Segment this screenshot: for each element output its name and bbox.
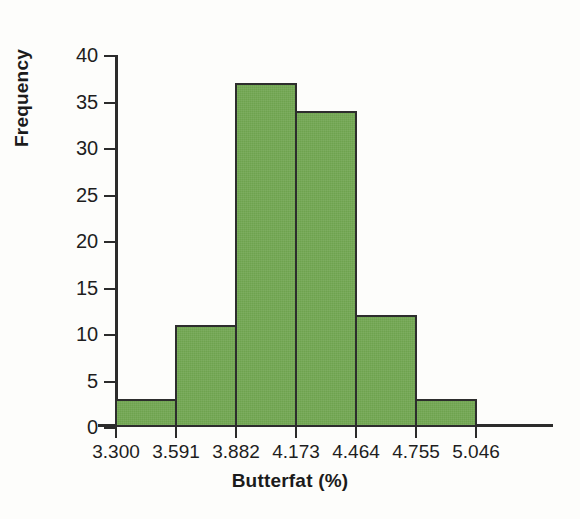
y-axis-tick bbox=[104, 288, 115, 290]
x-axis-tick bbox=[295, 427, 297, 438]
y-axis-tick bbox=[104, 148, 115, 150]
y-axis-tick-label: 15 bbox=[52, 277, 98, 300]
histogram-bar bbox=[355, 315, 417, 427]
y-axis-tick bbox=[104, 381, 115, 383]
histogram-chart: Frequency 0510152025303540 3.3003.5913.8… bbox=[0, 0, 580, 519]
y-axis-tick bbox=[104, 55, 115, 57]
y-axis-tick-label: 35 bbox=[52, 91, 98, 114]
x-axis-tick bbox=[115, 427, 117, 438]
y-axis-tick-label: 20 bbox=[52, 230, 98, 253]
y-axis-tick-label: 25 bbox=[52, 184, 98, 207]
x-axis-tick bbox=[355, 427, 357, 438]
x-axis-tick bbox=[175, 427, 177, 438]
x-axis-title: Butterfat (%) bbox=[0, 470, 580, 492]
histogram-bar bbox=[295, 111, 357, 427]
y-axis-tick bbox=[104, 241, 115, 243]
x-axis-tick bbox=[235, 427, 237, 438]
y-axis-tick bbox=[104, 334, 115, 336]
histogram-bar bbox=[235, 83, 297, 427]
y-axis-tick-label: 5 bbox=[52, 370, 98, 393]
y-axis-tick-label: 0 bbox=[52, 416, 98, 439]
y-axis-line bbox=[115, 55, 118, 427]
y-axis-tick-label: 40 bbox=[52, 44, 98, 67]
histogram-bar bbox=[115, 399, 177, 427]
plot-area: 0510152025303540 3.3003.5913.8824.1734.4… bbox=[115, 55, 535, 427]
y-axis-tick-label: 30 bbox=[52, 137, 98, 160]
histogram-bar bbox=[415, 399, 477, 427]
y-axis-tick bbox=[104, 195, 115, 197]
x-axis-tick-label: 5.046 bbox=[440, 441, 512, 463]
y-axis-tick bbox=[104, 102, 115, 104]
y-axis-tick bbox=[104, 427, 115, 429]
y-axis-tick-label: 10 bbox=[52, 323, 98, 346]
y-axis-title: Frequency bbox=[8, 13, 36, 183]
x-axis-tick bbox=[475, 427, 477, 438]
histogram-bar bbox=[175, 325, 237, 427]
x-axis-tick bbox=[415, 427, 417, 438]
